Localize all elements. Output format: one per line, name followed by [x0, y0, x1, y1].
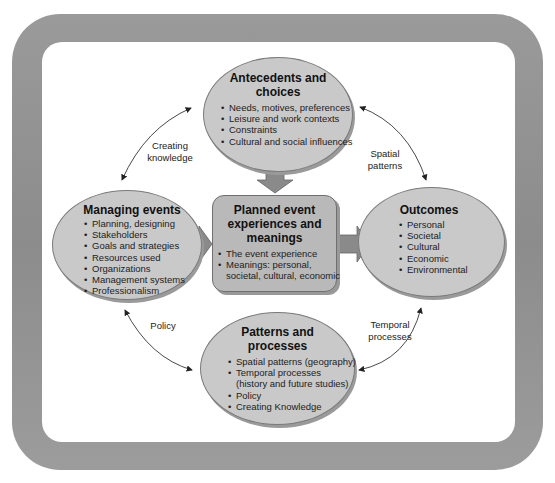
down-block-arrow — [257, 172, 293, 193]
patterns-title: Patterns and processes — [201, 325, 354, 353]
planned-event-title: Planned event experiences and meanings — [213, 203, 336, 245]
label-line: Policy — [143, 320, 183, 332]
list-item: Spatial patterns (geography) — [228, 356, 354, 367]
list-item: The event experience — [218, 248, 336, 259]
list-item: Needs, motives, preferences — [221, 102, 352, 113]
planned-event-list: The event experience Meanings: personal,… — [218, 248, 336, 282]
list-item: Personal — [399, 219, 504, 230]
list-item: Temporal processes — [228, 367, 354, 378]
list-item: Constraints — [221, 124, 352, 135]
label-line: patterns — [360, 160, 410, 172]
title-line: meanings — [213, 231, 336, 245]
patterns-list: Spatial patterns (geography) Temporal pr… — [228, 356, 354, 412]
list-item: Professionalism — [84, 285, 201, 296]
antecedents-title: Antecedents and choices — [204, 71, 352, 99]
label-line: processes — [360, 331, 420, 343]
list-item: Environmental — [399, 264, 504, 275]
list-item: Organizations — [84, 263, 201, 274]
list-item: Leisure and work contexts — [221, 113, 352, 124]
outcomes-title: Outcomes — [354, 203, 504, 217]
creating-knowledge-label: Creating knowledge — [140, 140, 200, 164]
managing-events-node: Managing events Planning, designing Stak… — [52, 190, 202, 300]
managing-events-title: Managing events — [63, 203, 201, 217]
title-line: Planned event — [213, 203, 336, 217]
list-item: Societal — [399, 230, 504, 241]
list-item: Planning, designing — [84, 218, 201, 229]
title-line: Patterns and — [201, 325, 354, 339]
outcomes-node: Outcomes Personal Societal Cultural Econ… — [358, 187, 505, 297]
list-item: Meanings: personal, — [218, 259, 336, 270]
label-line: Creating — [140, 140, 200, 152]
list-item: Resources used — [84, 252, 201, 263]
policy-arrow — [125, 310, 192, 370]
list-item: Policy — [228, 390, 354, 401]
label-line: Spatial — [360, 148, 410, 160]
title-line: processes — [201, 339, 354, 353]
list-item: Management systems — [84, 274, 201, 285]
list-item: Stakeholders — [84, 229, 201, 240]
temporal-processes-label: Temporal processes — [360, 319, 420, 343]
label-line: knowledge — [140, 152, 200, 164]
policy-label: Policy — [143, 320, 183, 332]
list-item: Goals and strategies — [84, 240, 201, 251]
planned-event-node: Planned event experiences and meanings T… — [212, 195, 337, 292]
title-line: Antecedents and — [204, 71, 352, 85]
list-item-continuation: societal, cultural, economic — [218, 270, 336, 281]
title-line: choices — [204, 85, 352, 99]
title-line: experiences and — [213, 217, 336, 231]
spatial-patterns-label: Spatial patterns — [360, 148, 410, 172]
antecedents-node: Antecedents and choices Needs, motives, … — [203, 57, 353, 172]
label-line: Temporal — [360, 319, 420, 331]
list-item: Cultural and social influences — [221, 136, 352, 147]
list-item: Economic — [399, 253, 504, 264]
list-item: Cultural — [399, 241, 504, 252]
managing-events-list: Planning, designing Stakeholders Goals a… — [84, 218, 201, 296]
list-item-continuation: (history and future studies) — [228, 378, 354, 389]
antecedents-list: Needs, motives, preferences Leisure and … — [221, 102, 352, 147]
list-item: Creating Knowledge — [228, 401, 354, 412]
outcomes-list: Personal Societal Cultural Economic Envi… — [399, 219, 504, 275]
patterns-node: Patterns and processes Spatial patterns … — [200, 312, 355, 425]
